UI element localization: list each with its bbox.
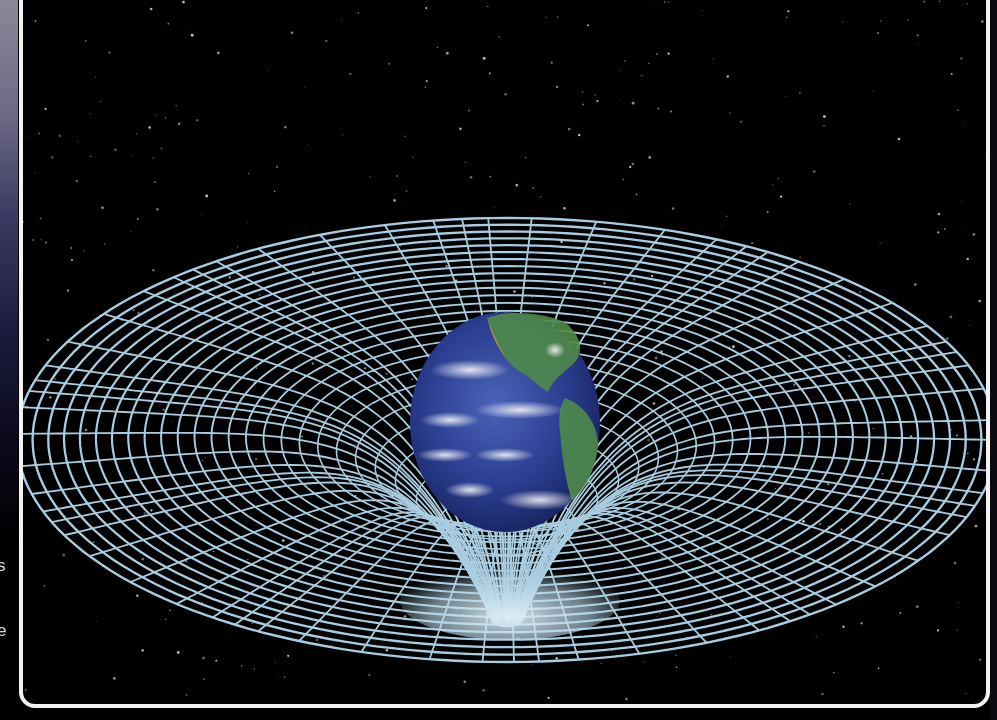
page-margin-right (990, 0, 997, 720)
earth-globe (410, 312, 600, 532)
gravity-well-funnel (400, 560, 620, 640)
spacetime-illustration (0, 0, 997, 720)
